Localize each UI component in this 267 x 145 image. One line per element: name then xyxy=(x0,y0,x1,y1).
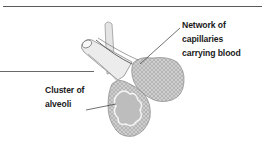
label-line: carrying blood xyxy=(182,46,241,60)
label-line: Network of xyxy=(182,18,241,32)
label-line: Cluster of xyxy=(45,83,84,97)
label-line: alveoli xyxy=(45,97,84,111)
label-line: capillaries xyxy=(182,32,241,46)
label-alveoli-cluster: Cluster of alveoli xyxy=(45,83,84,111)
label-capillary-network: Network of capillaries carrying blood xyxy=(182,18,241,60)
